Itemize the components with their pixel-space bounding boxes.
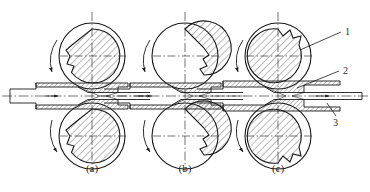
tube-rolling-diagram: (a) (b) <box>0 0 370 192</box>
panel-c-caption: (c) <box>272 162 285 175</box>
panel-a-caption: (a) <box>86 162 99 175</box>
callout-2-label: 2 <box>343 65 348 76</box>
figure-root: (a) (b) <box>0 0 370 192</box>
panel-b-caption: (b) <box>179 162 192 175</box>
callout-3-label: 3 <box>333 117 338 128</box>
callout-1-label: 1 <box>345 26 350 37</box>
